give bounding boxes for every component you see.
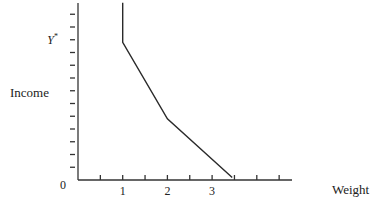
x-ticks — [100, 175, 279, 180]
x-tick-label: 2 — [164, 184, 170, 198]
x-tick-labels: 123 — [120, 184, 215, 198]
x-tick-label: 3 — [209, 184, 215, 198]
y-annotation-label: Y* — [47, 32, 58, 47]
series-line — [123, 3, 233, 178]
y-annotations: Y* — [47, 32, 58, 47]
x-tick-label: 1 — [120, 184, 126, 198]
chart: Income Weight 0 Y* 123 — [0, 0, 376, 208]
y-annotation-superscript: * — [54, 32, 58, 41]
y-ticks — [70, 14, 75, 167]
axes — [78, 3, 292, 180]
series — [123, 3, 233, 178]
origin-label: 0 — [60, 178, 66, 192]
x-axis-label: Weight — [332, 182, 370, 197]
y-axis-label: Income — [10, 85, 49, 100]
